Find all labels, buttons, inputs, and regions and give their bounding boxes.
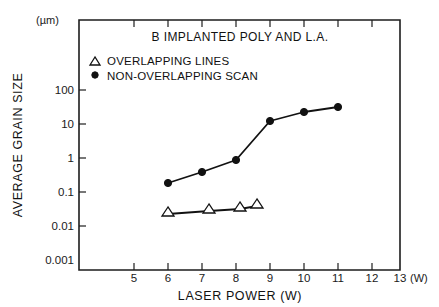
y-tick-label: 100 xyxy=(55,84,74,96)
legend-label-overlapping-lines: OVERLAPPING LINES xyxy=(107,55,229,67)
y-axis-title: AVERAGE GRAIN SIZE xyxy=(11,73,25,218)
x-axis-ticks-top xyxy=(134,20,372,27)
data-point xyxy=(266,117,273,124)
data-point xyxy=(234,202,246,211)
data-point xyxy=(164,179,171,186)
x-tick-label: 12 xyxy=(366,272,379,284)
data-point xyxy=(198,168,205,175)
data-point xyxy=(162,207,174,216)
y-tick-label: 0.1 xyxy=(58,186,74,198)
x-tick-label: 8 xyxy=(233,272,239,284)
data-point xyxy=(300,108,307,115)
data-point xyxy=(251,199,263,208)
x-tick-label: 11 xyxy=(332,272,344,284)
open-triangle-icon xyxy=(90,57,100,65)
series-non-overlapping-scan xyxy=(164,103,341,186)
data-point xyxy=(334,103,341,110)
series-overlapping-lines xyxy=(162,199,263,216)
x-tick-label: 6 xyxy=(165,272,171,284)
x-axis-ticks-bottom: 5 6 7 8 9 10 11 12 13 (W) xyxy=(131,263,428,284)
chart-figure: (µm) 100 10 1 0.1 0.01 0.001 5 6 7 8 xyxy=(0,0,439,307)
legend-label-non-overlapping-scan: NON-OVERLAPPING SCAN xyxy=(107,70,258,82)
x-axis-title: LASER POWER (W) xyxy=(178,289,302,303)
y-tick-label: 0.01 xyxy=(52,220,74,232)
x-tick-label: 9 xyxy=(267,272,273,284)
y-axis-ticks: 100 10 1 0.1 0.01 0.001 xyxy=(45,84,86,266)
x-tick-label: 10 xyxy=(298,272,311,284)
x-tick-label: 5 xyxy=(131,272,137,284)
y-tick-label: 10 xyxy=(61,118,74,130)
series-line-non-overlapping-scan xyxy=(168,107,338,183)
data-point xyxy=(232,156,239,163)
x-axis-unit-suffix: (W) xyxy=(410,272,428,284)
grain-size-vs-laser-power-chart: (µm) 100 10 1 0.1 0.01 0.001 5 6 7 8 xyxy=(0,0,439,307)
x-tick-label: 7 xyxy=(199,272,205,284)
y-tick-label: 1 xyxy=(68,152,74,164)
data-point xyxy=(203,204,215,213)
y-axis-unit-label: (µm) xyxy=(36,14,59,26)
filled-circle-icon xyxy=(92,72,98,78)
chart-legend: OVERLAPPING LINES NON-OVERLAPPING SCAN xyxy=(90,55,258,82)
x-tick-label: 13 xyxy=(394,272,407,284)
y-tick-label: 0.001 xyxy=(45,254,74,266)
chart-title: B IMPLANTED POLY AND L.A. xyxy=(152,30,329,44)
